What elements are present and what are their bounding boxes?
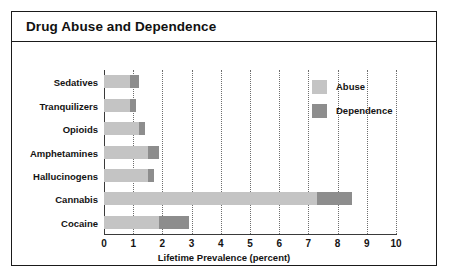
bar-segment-abuse [104,146,148,159]
y-axis-tick-label: Amphetamines [12,148,98,159]
legend-item: Dependence [312,104,430,118]
figure-panel: Drug Abuse and Dependence SedativesTranq… [11,11,437,266]
bar-segment-dependence [148,146,160,159]
chart-legend: AbuseDependence [312,80,430,124]
bar-row [104,146,396,159]
bar-segment-abuse [104,169,148,182]
x-axis-tick-label: 10 [390,238,401,249]
page-title: Drug Abuse and Dependence [26,19,216,34]
x-axis-ticks: 012345678910 [104,238,396,252]
y-axis-tick-label: Hallucinogens [12,171,98,182]
bar-segment-abuse [104,99,130,112]
bar-segment-dependence [159,216,188,229]
legend-label: Abuse [336,81,365,92]
legend-swatch-icon [312,80,327,94]
bar-segment-dependence [148,169,154,182]
x-axis-tick-label: 5 [247,238,253,249]
legend-label: Dependence [336,105,393,116]
y-axis-labels: SedativesTranquilizersOpioidsAmphetamine… [12,70,98,234]
bar-segment-abuse [104,75,130,88]
x-axis-tick-label: 2 [160,238,166,249]
bar-segment-dependence [130,99,136,112]
x-axis-tick-label: 1 [130,238,136,249]
legend-swatch-icon [312,104,327,118]
bar-row [104,122,396,135]
y-axis-tick-label: Sedatives [12,77,98,88]
bar-segment-abuse [104,216,159,229]
bar-row [104,216,396,229]
x-axis-tick-label: 3 [189,238,195,249]
x-axis-tick-label: 8 [335,238,341,249]
bar-row [104,192,396,205]
bar-row [104,169,396,182]
bar-segment-dependence [130,75,139,88]
x-axis-tick-label: 4 [218,238,224,249]
x-axis-tick-label: 7 [306,238,312,249]
bar-segment-dependence [139,122,145,135]
x-axis-tick-label: 0 [101,238,107,249]
x-axis-tick-label: 9 [364,238,370,249]
bar-segment-abuse [104,192,317,205]
bar-segment-abuse [104,122,139,135]
x-axis-line [104,234,397,235]
title-bar: Drug Abuse and Dependence [12,12,436,42]
bar-segment-dependence [317,192,352,205]
legend-item: Abuse [312,80,430,94]
x-axis-tick-label: 6 [276,238,282,249]
y-axis-tick-label: Tranquilizers [12,101,98,112]
y-axis-tick-label: Cocaine [12,218,98,229]
x-axis-title: Lifetime Prevalence (percent) [12,252,436,263]
y-axis-tick-label: Cannabis [12,194,98,205]
y-axis-tick-label: Opioids [12,124,98,135]
